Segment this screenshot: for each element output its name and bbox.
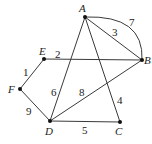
vertex-label-D: D: [44, 125, 53, 137]
edge-A-D: [50, 17, 85, 121]
edge-weight-A-B: 7: [129, 16, 135, 28]
edge-weight-E-B: 2: [55, 48, 61, 60]
edge-weight-A-C: 4: [117, 94, 123, 106]
vertex-label-B: B: [144, 54, 151, 66]
edge-weight-A-B: 3: [112, 26, 118, 38]
edge-weight-A-D: 6: [51, 86, 57, 98]
vertex-label-C: C: [115, 125, 123, 137]
vertex-label-A: A: [78, 2, 86, 14]
edge-weight-D-B: 8: [79, 86, 85, 98]
edge-D-B: [50, 60, 142, 121]
edge-D-C: [50, 121, 120, 122]
weighted-graph-diagram: 374628519ABCDEF: [0, 0, 152, 144]
edge-weight-F-E: 1: [23, 66, 29, 78]
edge-weight-F-D: 9: [26, 105, 32, 117]
vertex-A-dot: [83, 15, 87, 19]
vertex-label-E: E: [38, 45, 46, 57]
vertex-E-dot: [42, 57, 46, 61]
edges-layer: [20, 17, 142, 122]
edge-F-D: [20, 89, 50, 121]
vertex-label-F: F: [7, 83, 15, 95]
vertex-D-dot: [48, 119, 52, 123]
vertex-F-dot: [18, 87, 22, 91]
labels-layer: 374628519ABCDEF: [7, 2, 151, 137]
edge-weight-D-C: 5: [82, 124, 88, 136]
vertex-C-dot: [118, 120, 122, 124]
